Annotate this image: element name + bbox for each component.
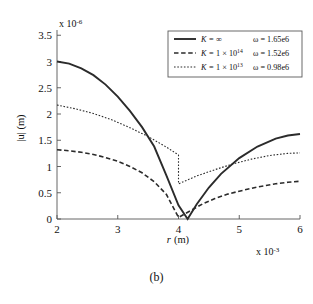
- y-axis-exponent: x 10-6: [59, 18, 83, 30]
- y-tick-label: 1.5: [38, 134, 52, 146]
- legend-label-omega-3: ω = 0.98e6: [253, 63, 289, 72]
- legend-label-omega-2: ω = 1.52e6: [253, 49, 289, 58]
- figure-panel: 00.511.522.533.5 23456 x 10-6 x 10-3 r(m…: [0, 0, 313, 304]
- y-tick-label: 3: [47, 56, 53, 68]
- curve-series-1: [57, 62, 300, 220]
- y-tick-label: 0.5: [38, 187, 52, 199]
- x-axis-title: r(m): [167, 234, 190, 246]
- curve-series-2: [57, 150, 300, 218]
- legend-label-omega-1: ω = 1.65e6: [253, 35, 289, 44]
- x-tick-label: 5: [237, 223, 243, 235]
- y-tick-label: 3.5: [38, 29, 52, 41]
- y-axis-title: |u| (m): [15, 114, 27, 142]
- legend-label-k-2: K = 1 × 1014: [200, 48, 243, 58]
- x-tick-label: 2: [54, 223, 60, 235]
- x-axis-exponent: x 10-3: [256, 246, 280, 258]
- y-tick-label: 2: [47, 108, 53, 120]
- y-tick-label: 2.5: [38, 82, 52, 94]
- y-axis-ticks: 00.511.522.533.5: [38, 29, 61, 225]
- data-curves: [57, 62, 300, 220]
- x-axis-ticks: 23456: [54, 215, 303, 235]
- x-tick-label: 6: [297, 223, 303, 235]
- figure-caption: (b): [0, 270, 313, 285]
- y-tick-label: 0: [47, 213, 53, 225]
- legend-label-k-1: K = ∞: [200, 35, 222, 44]
- chart-plot-area: 00.511.522.533.5 23456 x 10-6 x 10-3 r(m…: [0, 0, 313, 304]
- legend-label-k-3: K = 1 × 1013: [200, 62, 243, 72]
- y-tick-label: 1: [47, 161, 53, 173]
- x-tick-label: 3: [115, 223, 121, 235]
- chart-legend: K = ∞ω = 1.65e6K = 1 × 1014ω = 1.52e6K =…: [168, 31, 302, 77]
